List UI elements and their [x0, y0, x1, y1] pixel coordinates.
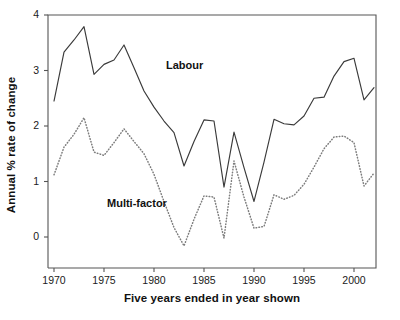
data-series [54, 27, 374, 246]
x-tick-label-1995: 1995 [284, 274, 324, 286]
annotation-multi-factor: Multi-factor [107, 197, 167, 209]
x-tick-label-2000: 2000 [334, 274, 374, 286]
y-tick-label-2: 2 [19, 119, 39, 131]
y-tick-label-0: 0 [19, 230, 39, 242]
annotation-labour: Labour [166, 59, 203, 71]
x-tick-label-1985: 1985 [184, 274, 224, 286]
y-tick-label-4: 4 [19, 8, 39, 20]
series-line-labour [54, 27, 374, 202]
axes [44, 15, 376, 272]
chart-figure: Annual % rate of change 01234 1970197519… [0, 0, 400, 320]
x-tick-label-1980: 1980 [134, 274, 174, 286]
plot-border [48, 15, 376, 268]
y-tick-label-3: 3 [19, 64, 39, 76]
y-tick-label-1: 1 [19, 175, 39, 187]
x-tick-label-1970: 1970 [34, 274, 74, 286]
series-line-multi-factor [54, 118, 374, 246]
x-tick-label-1975: 1975 [84, 274, 124, 286]
plot-area [0, 0, 400, 320]
x-axis-label: Five years ended in year shown [48, 292, 376, 304]
x-tick-label-1990: 1990 [234, 274, 274, 286]
